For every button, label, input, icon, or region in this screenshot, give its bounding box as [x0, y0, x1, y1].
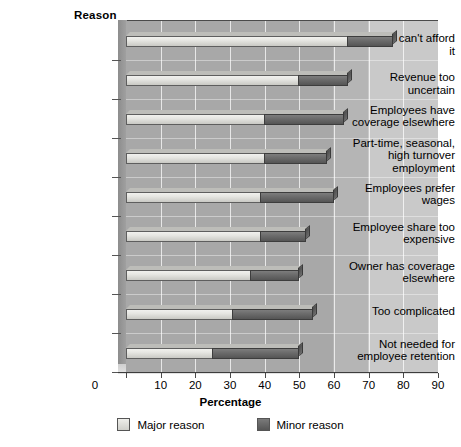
- bar-chart: Reason Business can't afford itRevenue t…: [0, 0, 461, 447]
- row-separator: [126, 60, 438, 61]
- x-tick-20: [195, 373, 196, 378]
- x-tick-label-80: 80: [388, 379, 418, 391]
- x-tick-label-30: 30: [215, 379, 245, 391]
- bar-5: [126, 231, 306, 242]
- bar-6: [126, 270, 299, 281]
- bar-3: [126, 153, 327, 164]
- y-tick-5: [112, 255, 121, 256]
- legend-item-major: Major reason: [117, 418, 204, 431]
- row-separator: [126, 177, 438, 178]
- bar-segment-minor: [347, 36, 393, 47]
- x-tick-80: [403, 373, 404, 378]
- bar-segment-minor: [260, 192, 334, 203]
- y-tick-0: [112, 60, 121, 61]
- x-tick-50: [299, 373, 300, 378]
- x-tick-label-60: 60: [319, 379, 349, 391]
- y-axis-label-1: Revenue too uncertain: [343, 71, 461, 96]
- bar-segment-major: [126, 309, 233, 320]
- bar-segment-minor: [212, 348, 300, 359]
- y-axis-label-4: Employees preferwages: [343, 182, 461, 207]
- bar-segment-minor: [264, 153, 327, 164]
- y-tick-1: [112, 99, 121, 100]
- y-axis-label-8: Not needed foremployee retention: [343, 338, 461, 363]
- bar-segment-major: [126, 75, 299, 86]
- bar-segment-major: [126, 36, 348, 47]
- y-tick-2: [112, 138, 121, 139]
- x-tick-0: [126, 373, 127, 378]
- bar-2: [126, 114, 344, 125]
- x-tick-60: [334, 373, 335, 378]
- bar-4: [126, 192, 334, 203]
- x-tick-30: [230, 373, 231, 378]
- y-tick-4: [112, 216, 121, 217]
- legend-swatch-minor-icon: [257, 418, 270, 431]
- row-separator: [126, 216, 438, 217]
- legend-label-minor: Minor reason: [277, 419, 344, 431]
- x-tick-label-50: 50: [284, 379, 314, 391]
- bar-segment-major: [126, 114, 265, 125]
- x-tick-90: [438, 373, 439, 378]
- legend-item-minor: Minor reason: [257, 418, 344, 431]
- x-axis-title: Percentage: [0, 396, 461, 408]
- bar-segment-minor: [260, 231, 306, 242]
- y-tick-7: [112, 333, 121, 334]
- bar-segment-minor: [298, 75, 348, 86]
- legend: Major reason Minor reason: [0, 418, 461, 431]
- x-axis-line: [126, 372, 438, 373]
- y-axis-title: Reason: [74, 9, 117, 21]
- row-separator: [126, 99, 438, 100]
- bar-segment-major: [126, 192, 261, 203]
- bar-8: [126, 348, 299, 359]
- bar-segment-minor: [264, 114, 345, 125]
- bar-segment-minor: [250, 270, 300, 281]
- y-axis-label-7: Too complicated: [343, 305, 461, 318]
- y-axis-label-5: Employee share tooexpensive: [343, 221, 461, 246]
- y-tick-6: [112, 294, 121, 295]
- legend-swatch-major-icon: [117, 418, 130, 431]
- y-axis-label-3: Part-time, seasonal,high turnoveremploym…: [343, 137, 461, 175]
- x-tick-label-0: 0: [80, 379, 110, 391]
- legend-label-major: Major reason: [137, 419, 204, 431]
- y-axis-label-6: Owner has coverageelsewhere: [343, 260, 461, 285]
- bar-segment-major: [126, 153, 265, 164]
- x-tick-label-40: 40: [250, 379, 280, 391]
- bar-1: [126, 75, 348, 86]
- bar-segment-major: [126, 270, 251, 281]
- bar-segment-minor: [232, 309, 313, 320]
- x-tick-70: [369, 373, 370, 378]
- bar-segment-major: [126, 348, 213, 359]
- bar-segment-major: [126, 231, 261, 242]
- bar-0: [126, 36, 393, 47]
- x-tick-label-10: 10: [146, 379, 176, 391]
- y-tick-3: [112, 177, 121, 178]
- x-tick-40: [265, 373, 266, 378]
- x-tick-label-70: 70: [354, 379, 384, 391]
- y-axis-label-2: Employees havecoverage elsewhere: [343, 104, 461, 129]
- x-tick-10: [161, 373, 162, 378]
- x-tick-label-90: 90: [423, 379, 453, 391]
- x-tick-label-20: 20: [180, 379, 210, 391]
- row-separator: [126, 294, 438, 295]
- row-separator: [126, 333, 438, 334]
- bar-7: [126, 309, 313, 320]
- row-separator: [126, 255, 438, 256]
